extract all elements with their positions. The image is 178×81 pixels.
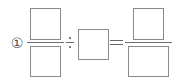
problem-number: ①	[10, 35, 24, 51]
result-fraction-line	[125, 42, 172, 43]
left-numerator-box[interactable]	[30, 8, 61, 40]
equals-sign	[110, 39, 123, 46]
result-numerator-box[interactable]	[133, 8, 164, 40]
divide-sign	[65, 35, 75, 51]
result-denominator-box[interactable]	[128, 46, 169, 77]
left-fraction-line	[27, 42, 64, 43]
left-denominator-box[interactable]	[30, 46, 61, 77]
divisor-box[interactable]	[78, 29, 109, 60]
